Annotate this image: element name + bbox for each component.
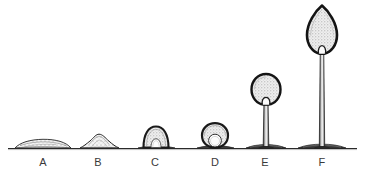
stage-label-a: A xyxy=(33,156,53,168)
stage-label-f-text: F xyxy=(318,156,325,168)
stage-label-e-text: E xyxy=(261,156,269,168)
stage-label-d: D xyxy=(205,156,225,168)
stage-label-b: B xyxy=(88,156,108,168)
stage-f-stalked-head xyxy=(298,6,346,149)
stage-label-c-text: C xyxy=(151,156,159,168)
ground-line xyxy=(8,149,357,150)
stage-e-stalked-head xyxy=(246,74,286,148)
stage-b-mound xyxy=(80,134,119,148)
stage-d-globose xyxy=(197,123,234,148)
figure-container: A B C D E F xyxy=(0,0,365,175)
stage-label-f: F xyxy=(312,156,332,168)
stage-a-mound xyxy=(15,139,71,148)
stage-label-a-text: A xyxy=(39,156,47,168)
stage-label-e: E xyxy=(255,156,275,168)
stage-label-c: C xyxy=(145,156,165,168)
stage-label-d-text: D xyxy=(211,156,219,168)
developmental-sequence-illustration xyxy=(0,0,365,175)
stage-label-b-text: B xyxy=(94,156,102,168)
stage-c-dome xyxy=(138,127,175,149)
